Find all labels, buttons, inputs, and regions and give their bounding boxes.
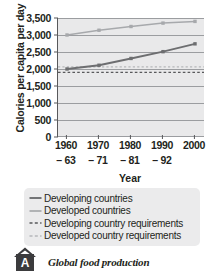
legend-line-solid-light-icon <box>29 206 42 216</box>
x-tick-1980: 1980 – 81 <box>119 139 141 166</box>
legend-line-dashed-dark-icon <box>29 218 42 228</box>
figure-global-food-production: Calories per capita per day 3,500 3,000 … <box>0 0 207 280</box>
x-axis-title: Year <box>57 172 203 184</box>
x-tick-2000: 2000 <box>183 139 205 154</box>
caption-badge-letter: A <box>21 257 30 269</box>
y-tick-label: 500 <box>34 114 51 126</box>
series-developing-countries <box>67 44 195 69</box>
legend-label: Developing countries <box>44 193 132 204</box>
y-tick-label: 3,500 <box>26 12 51 24</box>
legend-line-dashed-light-icon <box>29 231 42 241</box>
x-tick-1990: 1990 – 92 <box>151 139 173 166</box>
chart-line-calories-per-capita: Calories per capita per day 3,500 3,000 … <box>0 6 207 184</box>
x-tick-1970: 1970 – 71 <box>87 139 109 166</box>
legend-item-developing-countries: Developing countries <box>29 192 196 205</box>
plot-area <box>57 18 204 137</box>
caption-badge: A <box>12 244 38 274</box>
legend-item-developed-country-requirements: Developed country requirements <box>29 230 196 243</box>
series-canvas <box>58 18 204 137</box>
y-tick-label: 2,500 <box>26 46 51 58</box>
x-tick-mark <box>130 135 131 139</box>
x-tick-mark <box>194 135 195 139</box>
y-tick-label: 3,000 <box>26 29 51 41</box>
x-axis-tick-labels: 1960 – 63 1970 – 71 1980 – 81 1990 – 92 … <box>57 139 203 173</box>
caption-text: Global food production <box>48 256 149 268</box>
legend-line-solid-dark-icon <box>29 193 42 203</box>
y-tick-label: 2,000 <box>26 63 51 75</box>
y-axis-tick-labels: 3,500 3,000 2,500 2,000 1,500 1,000 500 … <box>16 18 54 137</box>
x-tick-1960: 1960 – 63 <box>55 139 77 166</box>
caption-badge-letter-box: A <box>16 254 34 271</box>
y-tick-label: 1,000 <box>26 97 51 109</box>
y-tick-label: 0 <box>45 131 51 143</box>
figure-caption: A Global food production <box>12 244 207 276</box>
legend-label: Developed countries <box>44 205 130 216</box>
legend-label: Developing country requirements <box>44 218 183 229</box>
legend-item-developing-country-requirements: Developing country requirements <box>29 217 196 230</box>
legend-label: Developed country requirements <box>44 230 181 241</box>
chart-legend: Developing countries Developed countries… <box>24 188 200 246</box>
x-tick-mark <box>98 135 99 139</box>
legend-item-developed-countries: Developed countries <box>29 205 196 218</box>
y-tick-label: 1,500 <box>26 80 51 92</box>
x-tick-mark <box>162 135 163 139</box>
x-tick-mark <box>66 135 67 139</box>
